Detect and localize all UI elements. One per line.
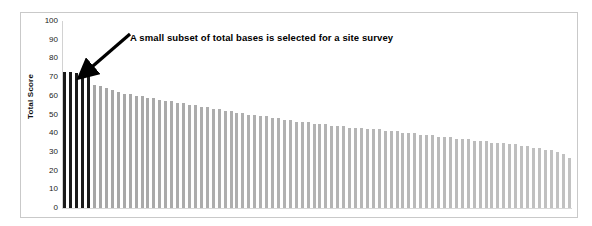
- bar: [401, 133, 404, 208]
- y-axis-tick: 40: [30, 129, 58, 137]
- bar: [413, 133, 416, 208]
- bar: [378, 129, 381, 208]
- bar: [141, 96, 144, 208]
- bar: [490, 143, 493, 208]
- bar: [514, 144, 517, 208]
- bar: [87, 75, 90, 208]
- bar: [176, 103, 179, 208]
- bar: [324, 124, 327, 208]
- y-axis-tick: 70: [30, 73, 58, 81]
- bar: [99, 86, 102, 208]
- plot-area: [62, 21, 572, 208]
- bar: [526, 146, 529, 208]
- chart-annotation-text: A small subset of total bases is selecte…: [130, 32, 393, 43]
- bar: [532, 148, 535, 208]
- y-axis-tick: 10: [30, 185, 58, 193]
- bar: [443, 137, 446, 208]
- chart-figure: Total Score 1009080706050403020100 A sma…: [0, 0, 592, 226]
- bar: [289, 120, 292, 208]
- bar: [485, 141, 488, 208]
- bar: [568, 158, 571, 208]
- bar: [224, 111, 227, 208]
- bar: [259, 116, 262, 208]
- y-axis-tick: 80: [30, 54, 58, 62]
- bar: [372, 129, 375, 208]
- bar: [348, 128, 351, 208]
- bar: [69, 72, 72, 209]
- bar: [550, 150, 553, 208]
- bar: [502, 143, 505, 208]
- bar: [342, 126, 345, 208]
- bar: [117, 92, 120, 208]
- y-axis-tick: 30: [30, 148, 58, 156]
- bar: [200, 107, 203, 208]
- bar: [75, 73, 78, 208]
- bar: [218, 109, 221, 208]
- bar: [461, 139, 464, 208]
- bar: [129, 94, 132, 208]
- bar: [562, 154, 565, 208]
- bar: [496, 143, 499, 208]
- bar: [182, 103, 185, 208]
- bar: [253, 115, 256, 209]
- y-axis-tick-labels: 1009080706050403020100: [30, 21, 58, 208]
- bar: [93, 85, 96, 208]
- bar: [425, 135, 428, 208]
- y-axis-tick: 60: [30, 92, 58, 100]
- y-axis-tick: 50: [30, 111, 58, 119]
- y-axis-tick: 0: [30, 204, 58, 212]
- bar: [455, 139, 458, 208]
- bar: [135, 96, 138, 208]
- bar: [235, 113, 238, 208]
- bar: [431, 135, 434, 208]
- bar: [407, 133, 410, 208]
- bar: [241, 113, 244, 208]
- bar: [437, 137, 440, 208]
- bar: [354, 128, 357, 208]
- bar: [508, 144, 511, 208]
- bar: [384, 131, 387, 208]
- bar: [63, 72, 66, 209]
- bar: [538, 148, 541, 208]
- bar: [152, 98, 155, 208]
- bar: [158, 100, 161, 208]
- y-axis-tick: 90: [30, 36, 58, 44]
- bar: [146, 98, 149, 208]
- bar: [520, 146, 523, 208]
- bar: [390, 131, 393, 208]
- bar: [473, 141, 476, 208]
- bar: [164, 101, 167, 208]
- x-axis-line: [62, 208, 572, 209]
- bar: [360, 128, 363, 208]
- bar: [301, 122, 304, 208]
- y-axis-tick: 20: [30, 167, 58, 175]
- bar: [295, 122, 298, 208]
- bar: [313, 124, 316, 208]
- bar: [247, 115, 250, 209]
- bar: [283, 120, 286, 208]
- bar: [212, 109, 215, 208]
- bar: [556, 152, 559, 208]
- bar: [330, 126, 333, 208]
- bar: [544, 150, 547, 208]
- bar: [188, 105, 191, 208]
- bar: [277, 118, 280, 208]
- bar: [194, 105, 197, 208]
- bar: [271, 118, 274, 208]
- bar: [449, 137, 452, 208]
- bar: [206, 107, 209, 208]
- bar: [123, 94, 126, 208]
- bar: [105, 88, 108, 208]
- bar: [336, 126, 339, 208]
- bar: [467, 139, 470, 208]
- bar: [111, 90, 114, 208]
- bar: [230, 111, 233, 208]
- bar: [170, 101, 173, 208]
- bar: [265, 116, 268, 208]
- bar: [419, 135, 422, 208]
- bar: [479, 141, 482, 208]
- bar: [307, 122, 310, 208]
- bar: [318, 124, 321, 208]
- y-axis-tick: 100: [30, 17, 58, 25]
- bar: [396, 131, 399, 208]
